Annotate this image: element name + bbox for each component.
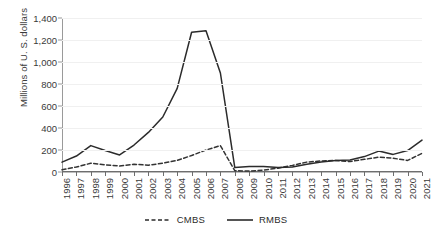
x-tick-label: 2017 [363, 178, 374, 199]
legend-swatch-dashed [145, 216, 171, 224]
y-tick-mark [58, 62, 62, 63]
x-tick-mark [278, 172, 279, 176]
y-tick-mark [58, 18, 62, 19]
y-tick-label: 400 [41, 123, 57, 134]
x-tick-label: 2004 [176, 178, 187, 199]
x-tick-mark [91, 172, 92, 176]
x-tick-label: 2003 [161, 178, 172, 199]
x-tick-mark [220, 172, 221, 176]
y-tick-label: 1,000 [33, 57, 57, 68]
x-tick-label: 1997 [75, 178, 86, 199]
series-line-rmbs [62, 31, 422, 168]
gridline [62, 40, 422, 41]
x-tick-mark [134, 172, 135, 176]
x-tick-mark [307, 172, 308, 176]
gridline [62, 18, 422, 19]
x-tick-label: 2000 [118, 178, 129, 199]
y-tick-label: 800 [41, 79, 57, 90]
x-tick-mark [364, 172, 365, 176]
x-tick-mark [350, 172, 351, 176]
x-tick-mark [249, 172, 250, 176]
x-tick-mark [120, 172, 121, 176]
x-tick-mark [206, 172, 207, 176]
gridline [62, 172, 422, 173]
x-tick-label: 2012 [291, 178, 302, 199]
legend-item-rmbs[interactable]: RMBS [227, 214, 287, 225]
x-tick-mark [336, 172, 337, 176]
series-layer [62, 18, 422, 172]
chart-legend: CMBSRMBS [0, 214, 432, 225]
x-tick-mark [393, 172, 394, 176]
x-tick-mark [264, 172, 265, 176]
x-tick-label: 2007 [219, 178, 230, 199]
x-tick-mark [235, 172, 236, 176]
x-tick-label: 2018 [377, 178, 388, 199]
x-tick-mark [177, 172, 178, 176]
x-tick-label: 2014 [320, 178, 331, 199]
y-tick-mark [58, 128, 62, 129]
y-tick-label: 1,200 [33, 35, 57, 46]
y-tick-mark [58, 84, 62, 85]
x-tick-mark [321, 172, 322, 176]
y-axis-title: Millions of U. S. dollars [18, 0, 29, 133]
y-tick-label: 1,400 [33, 13, 57, 24]
x-tick-label: 2020 [406, 178, 417, 199]
x-tick-mark [422, 172, 423, 176]
y-tick-mark [58, 106, 62, 107]
x-tick-label: 2002 [147, 178, 158, 199]
x-tick-mark [163, 172, 164, 176]
y-tick-label: 0 [52, 167, 57, 178]
x-tick-mark [105, 172, 106, 176]
x-tick-label: 2021 [421, 178, 432, 199]
x-tick-label: 2016 [349, 178, 360, 199]
y-tick-label: 200 [41, 145, 57, 156]
x-tick-mark [76, 172, 77, 176]
x-tick-label: 2006 [205, 178, 216, 199]
legend-item-cmbs[interactable]: CMBS [145, 214, 205, 225]
x-tick-mark [379, 172, 380, 176]
x-tick-label: 2013 [305, 178, 316, 199]
x-tick-mark [62, 172, 63, 176]
x-tick-label: 2009 [248, 178, 259, 199]
plot-area: 02004006008001,0001,2001,400199619971998… [62, 18, 422, 172]
legend-label: CMBS [177, 214, 205, 225]
gridline [62, 106, 422, 107]
x-tick-label: 2015 [334, 178, 345, 199]
legend-label: RMBS [259, 214, 287, 225]
y-tick-mark [58, 150, 62, 151]
y-tick-mark [58, 40, 62, 41]
x-tick-label: 2001 [133, 178, 144, 199]
gridline [62, 128, 422, 129]
x-tick-mark [408, 172, 409, 176]
x-tick-label: 1996 [61, 178, 72, 199]
gridline [62, 84, 422, 85]
x-tick-label: 2019 [392, 178, 403, 199]
x-tick-label: 1999 [104, 178, 115, 199]
gridline [62, 150, 422, 151]
x-tick-mark [192, 172, 193, 176]
x-tick-label: 2010 [262, 178, 273, 199]
legend-swatch-solid [227, 216, 253, 224]
x-tick-label: 2008 [233, 178, 244, 199]
line-chart: Millions of U. S. dollars 02004006008001… [0, 0, 432, 231]
gridline [62, 62, 422, 63]
x-tick-label: 1998 [89, 178, 100, 199]
y-tick-label: 600 [41, 101, 57, 112]
x-tick-mark [148, 172, 149, 176]
x-tick-label: 2005 [190, 178, 201, 199]
x-tick-label: 2011 [277, 178, 288, 198]
x-tick-mark [292, 172, 293, 176]
